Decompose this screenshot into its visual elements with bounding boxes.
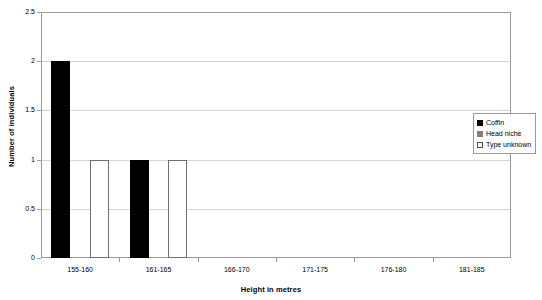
y-tick-label: 2.5 <box>25 8 35 15</box>
y-tick-label: 1 <box>31 156 35 163</box>
x-tick-mark <box>354 258 355 262</box>
bar <box>51 61 70 258</box>
legend-label: Head niche <box>486 130 521 138</box>
legend-swatch-icon <box>477 120 483 126</box>
bar <box>90 160 109 258</box>
y-tick-label: 2 <box>31 57 35 64</box>
y-tick-label: 1.5 <box>25 106 35 113</box>
legend-item: Head niche <box>477 128 531 139</box>
y-tick-mark <box>37 12 41 13</box>
y-tick-mark <box>37 209 41 210</box>
x-tick-label: 155-160 <box>41 266 119 274</box>
legend-swatch-icon <box>477 142 483 148</box>
bar <box>168 160 187 258</box>
y-tick-mark <box>37 258 41 259</box>
x-tick-mark <box>198 258 199 262</box>
x-tick-mark <box>433 258 434 262</box>
y-tick-label: 0 <box>31 254 35 261</box>
x-tick-mark <box>276 258 277 262</box>
y-tick-mark <box>37 110 41 111</box>
x-tick-label: 166-170 <box>198 266 276 274</box>
x-tick-label: 176-180 <box>354 266 432 274</box>
bar <box>130 160 149 258</box>
legend-swatch-icon <box>477 131 483 137</box>
y-tick-mark <box>37 61 41 62</box>
legend-label: Type unknown <box>486 141 531 149</box>
x-tick-mark <box>119 258 120 262</box>
legend: CoffinHead nicheType unknown <box>473 113 536 154</box>
y-axis-title: Number of individuals <box>7 72 16 182</box>
legend-label: Coffin <box>486 119 504 127</box>
legend-item: Coffin <box>477 117 531 128</box>
y-tick-mark <box>37 160 41 161</box>
y-tick-label: 0.5 <box>25 205 35 212</box>
bars-layer <box>41 12 511 258</box>
x-tick-label: 171-175 <box>276 266 354 274</box>
x-tick-label: 181-185 <box>433 266 511 274</box>
x-tick-label: 161-165 <box>119 266 197 274</box>
x-axis-title: Height in metres <box>0 285 542 294</box>
bar-chart: 00.511.522.5 Number of individuals 155-1… <box>0 0 542 300</box>
legend-item: Type unknown <box>477 139 531 150</box>
